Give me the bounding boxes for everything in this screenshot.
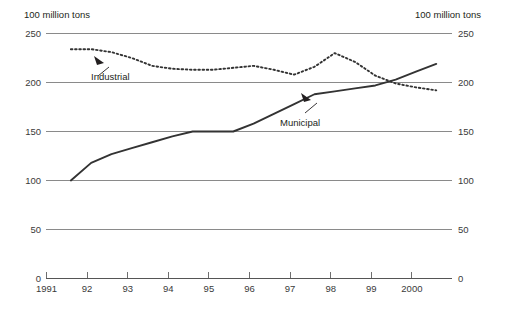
x-tick-label-92: 92	[82, 283, 93, 294]
y-tick-left-150: 150	[25, 126, 41, 137]
x-tick-label-99: 99	[366, 283, 377, 294]
left-unit-label: 100 million tons	[24, 9, 90, 20]
industrial-annotation-label: Industrial	[91, 71, 130, 82]
y-tick-right-250: 250	[458, 28, 474, 39]
x-tick-label-93: 93	[122, 283, 133, 294]
x-tick-label-96: 96	[244, 283, 255, 294]
chart-svg: 100 million tons 100 million tons 250 20…	[0, 0, 505, 316]
x-tick-label-1991: 1991	[36, 283, 57, 294]
y-tick-right-50: 50	[458, 224, 469, 235]
x-tick-label-2000: 2000	[401, 283, 422, 294]
y-tick-right-200: 200	[458, 77, 474, 88]
y-tick-right-100: 100	[458, 175, 474, 186]
x-tick-label-95: 95	[204, 283, 215, 294]
y-tick-left-100: 100	[25, 175, 41, 186]
y-tick-left-50: 50	[30, 224, 41, 235]
y-tick-left-250: 250	[25, 28, 41, 39]
y-tick-left-200: 200	[25, 77, 41, 88]
chart-figure: 100 million tons 100 million tons 250 20…	[0, 0, 505, 316]
chart-background	[0, 0, 505, 316]
x-tick-label-98: 98	[325, 283, 336, 294]
municipal-annotation-label: Municipal	[280, 117, 320, 128]
right-unit-label: 100 million tons	[415, 9, 481, 20]
y-tick-right-0: 0	[458, 273, 463, 284]
y-tick-right-150: 150	[458, 126, 474, 137]
x-tick-label-97: 97	[285, 283, 296, 294]
x-tick-label-94: 94	[163, 283, 174, 294]
